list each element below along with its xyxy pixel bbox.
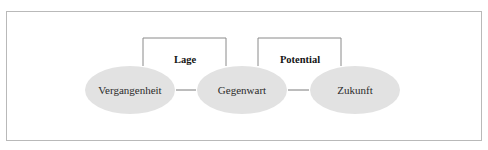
node-present-label: Gegenwart: [218, 84, 266, 96]
bracket-lage-label: Lage: [174, 54, 197, 65]
figure-container: Vergangenheit Gegenwart Zukunft Lage Pot…: [0, 0, 488, 150]
diagram-canvas: Vergangenheit Gegenwart Zukunft Lage Pot…: [0, 0, 488, 150]
node-future-label: Zukunft: [337, 84, 372, 96]
node-past-label: Vergangenheit: [98, 84, 161, 96]
bracket-potential-label: Potential: [280, 54, 320, 65]
bracket-label-group: Lage Potential: [174, 54, 320, 65]
